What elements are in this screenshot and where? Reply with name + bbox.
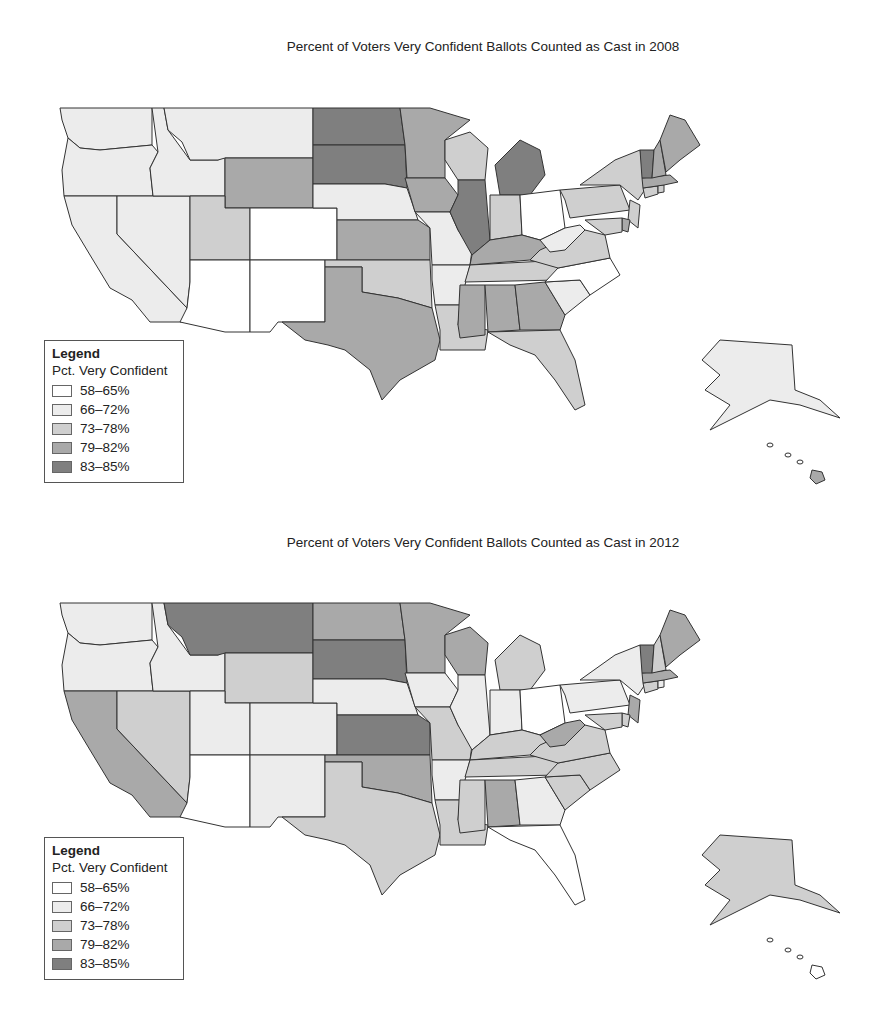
state-in xyxy=(490,195,522,240)
state-ak xyxy=(702,340,840,430)
state-de xyxy=(622,218,630,232)
legend-swatch-1 xyxy=(52,385,72,397)
legend-swatch-5 xyxy=(52,958,72,970)
legend-box-2012: Legend Pct. Very Confident 58–65% 66–72%… xyxy=(44,837,184,980)
state-mi xyxy=(495,635,545,690)
hawaii-island xyxy=(797,460,803,464)
state-co xyxy=(250,703,337,755)
hawaii-island xyxy=(767,443,773,447)
legend-swatch-2 xyxy=(52,404,72,416)
state-wy xyxy=(225,653,313,703)
legend-swatch-1 xyxy=(52,882,72,894)
state-az xyxy=(180,260,250,332)
map-panel-2008: Percent of Voters Very Confident Ballots… xyxy=(0,0,876,500)
state-ks xyxy=(337,220,430,260)
state-nd xyxy=(313,108,405,145)
legend-title: Legend xyxy=(52,346,177,361)
legend-item: 79–82% xyxy=(52,438,177,457)
state-mt xyxy=(164,603,313,655)
legend-swatch-4 xyxy=(52,939,72,951)
legend-item: 58–65% xyxy=(52,878,177,897)
state-nm xyxy=(250,260,325,332)
map-title-2012: Percent of Voters Very Confident Ballots… xyxy=(90,535,876,550)
legend-item: 66–72% xyxy=(52,897,177,916)
state-ms xyxy=(458,285,485,338)
state-mt xyxy=(164,108,313,160)
state-in xyxy=(490,690,522,735)
state-hi xyxy=(810,965,825,979)
legend-item: 58–65% xyxy=(52,381,177,400)
state-mi xyxy=(495,140,545,195)
hawaii-island xyxy=(785,948,791,952)
state-co xyxy=(250,208,337,260)
state-fl xyxy=(488,330,585,410)
legend-swatch-4 xyxy=(52,442,72,454)
state-de xyxy=(622,713,630,727)
legend-item: 79–82% xyxy=(52,935,177,954)
state-wi xyxy=(445,132,488,180)
state-nm xyxy=(250,755,325,827)
state-ak xyxy=(702,835,840,925)
legend-title: Legend xyxy=(52,843,177,858)
legend-item: 66–72% xyxy=(52,400,177,419)
state-al xyxy=(485,285,520,332)
state-fl xyxy=(488,825,585,905)
legend-item: 73–78% xyxy=(52,419,177,438)
legend-item: 73–78% xyxy=(52,916,177,935)
map-panel-2012: Percent of Voters Very Confident Ballots… xyxy=(0,510,876,1020)
legend-item: 83–85% xyxy=(52,954,177,973)
state-pa xyxy=(560,185,630,218)
state-wi xyxy=(445,627,488,675)
state-nd xyxy=(313,603,405,640)
legend-swatch-2 xyxy=(52,901,72,913)
state-wy xyxy=(225,158,313,208)
legend-box-2008: Legend Pct. Very Confident 58–65% 66–72%… xyxy=(44,340,184,483)
state-ks xyxy=(337,715,430,755)
state-hi xyxy=(810,470,825,484)
legend-swatch-3 xyxy=(52,423,72,435)
state-al xyxy=(485,780,520,827)
state-sd xyxy=(313,640,407,683)
legend-swatch-5 xyxy=(52,461,72,473)
state-ms xyxy=(458,780,485,833)
state-pa xyxy=(560,680,630,713)
state-sd xyxy=(313,145,407,188)
legend-subtitle: Pct. Very Confident xyxy=(52,860,177,875)
legend-subtitle: Pct. Very Confident xyxy=(52,363,177,378)
hawaii-island xyxy=(797,955,803,959)
map-title-2008: Percent of Voters Very Confident Ballots… xyxy=(90,39,876,54)
state-az xyxy=(180,755,250,827)
state-me xyxy=(660,115,700,172)
legend-item: 83–85% xyxy=(52,457,177,476)
hawaii-island xyxy=(785,453,791,457)
hawaii-island xyxy=(767,938,773,942)
state-me xyxy=(660,610,700,667)
legend-swatch-3 xyxy=(52,920,72,932)
